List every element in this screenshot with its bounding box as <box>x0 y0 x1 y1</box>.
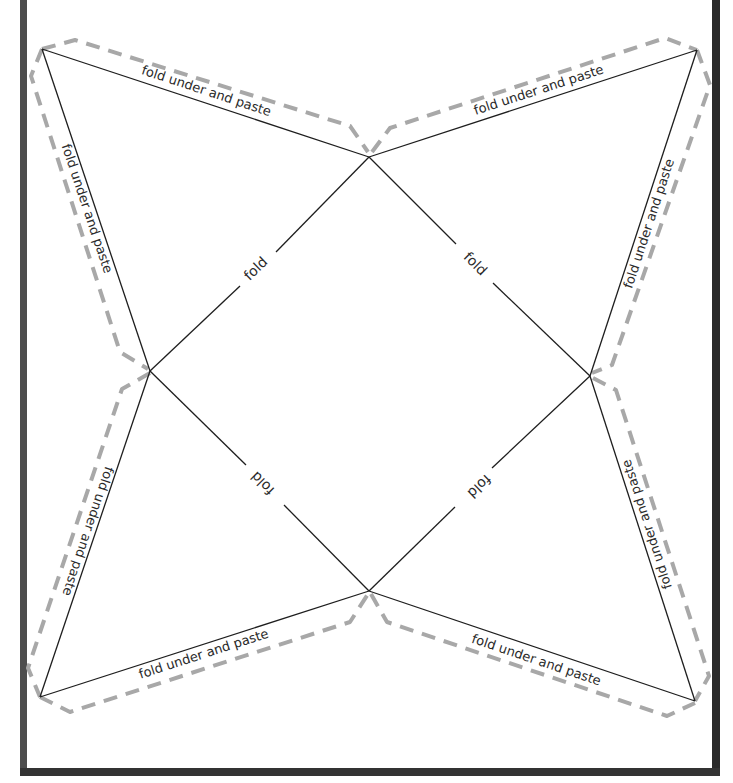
fold-label-upper-left: fold <box>241 254 271 284</box>
flap-label-right-lower: fold under and paste <box>619 458 675 591</box>
fold-line-lower-left-b <box>284 505 369 591</box>
flap-label-bottom-right: fold under and paste <box>470 631 603 688</box>
pyramid-net-diagram: fold fold fold fold fold under and paste… <box>0 0 733 783</box>
fold-line-upper-left-b <box>276 157 369 252</box>
flap-label-top-right: fold under and paste <box>472 62 605 118</box>
fold-label-upper-right: fold <box>461 249 491 279</box>
flap-label-right-upper: fold under and paste <box>620 157 677 290</box>
paper-sheet: fold fold fold fold fold under and paste… <box>0 0 733 783</box>
edge-top-tr <box>369 50 697 157</box>
flap-label-top-left: fold under and paste <box>140 62 273 119</box>
fold-line-upper-left-a <box>150 286 240 371</box>
edge-tl-top <box>42 49 369 157</box>
fold-line-upper-right-a <box>369 157 456 244</box>
fold-line-lower-right-a <box>369 507 455 591</box>
fold-line-lower-left-a <box>150 371 246 465</box>
fold-label-lower-right: fold <box>464 472 494 502</box>
edge-br-bottom <box>369 591 695 701</box>
outer-edges <box>40 49 697 701</box>
edge-bottom-bl <box>40 591 369 697</box>
fold-labels: fold fold fold fold <box>241 249 495 502</box>
fold-label-lower-left: fold <box>248 469 278 499</box>
flap-labels: fold under and paste fold under and past… <box>59 62 677 689</box>
flap-label-bottom-left: fold under and paste <box>137 626 270 682</box>
fold-lines <box>150 157 590 591</box>
fold-line-upper-right-b <box>493 283 590 376</box>
fold-line-lower-right-b <box>492 376 590 468</box>
flap-label-left-lower: fold under and paste <box>60 465 117 598</box>
cut-lines <box>28 38 710 716</box>
